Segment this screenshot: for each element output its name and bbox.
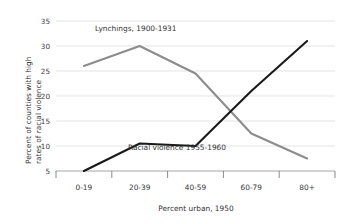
y-axis-title-line-2: rates of racial violence [34, 79, 43, 164]
y-axis-tick-label: 30 [41, 42, 51, 51]
x-axis-category-label: 60-79 [241, 183, 263, 192]
series-annotation-label: Racial violence 1955-1960 [128, 143, 226, 152]
series-annotation-label: Lynchings, 1900-1931 [95, 24, 177, 33]
x-axis-category-label: 80+ [299, 183, 315, 192]
x-axis-category-label: 0-19 [76, 183, 93, 192]
y-axis-tick-label: 35 [41, 17, 50, 26]
line-chart: 5101520253035 0-1920-3940-5960-7980+ Lyn… [0, 0, 344, 224]
x-axis-category-label: 20-39 [129, 183, 151, 192]
x-axis-category-label: 40-59 [185, 183, 207, 192]
chart-background [0, 0, 344, 224]
y-axis-tick-label: 25 [41, 67, 50, 76]
y-axis-tick-label: 5 [45, 167, 50, 176]
chart-canvas: 5101520253035 0-1920-3940-5960-7980+ Lyn… [0, 0, 344, 224]
x-axis-title: Percent urban, 1950 [158, 204, 234, 213]
y-axis-title-line-1: Percent of counties with high [24, 56, 33, 164]
